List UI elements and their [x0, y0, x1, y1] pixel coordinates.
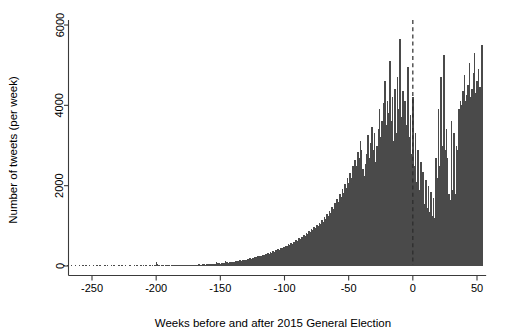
y-axis-ticks: 0200040006000 — [54, 13, 69, 269]
y-tick-label: 4000 — [54, 93, 66, 117]
x-tick-label: -100 — [273, 282, 295, 294]
x-tick-label: -50 — [341, 282, 357, 294]
histogram-bar — [481, 45, 483, 266]
x-tick-label: -150 — [209, 282, 231, 294]
y-axis-label: Number of tweets (per week) — [7, 76, 19, 224]
x-axis-label: Weeks before and after 2015 General Elec… — [155, 317, 391, 329]
histogram-bars — [63, 39, 483, 266]
y-tick-label: 2000 — [54, 173, 66, 197]
histogram-figure: 0200040006000 -250-200-150-100-50050 Wee… — [0, 0, 508, 332]
y-tick-label: 0 — [54, 263, 66, 269]
tweet-volume-histogram: 0200040006000 -250-200-150-100-50050 Wee… — [0, 0, 508, 332]
x-tick-label: 50 — [471, 282, 483, 294]
y-tick-label: 6000 — [54, 13, 66, 37]
x-axis-ticks: -250-200-150-100-50050 — [81, 276, 483, 294]
x-tick-label: -200 — [145, 282, 167, 294]
x-tick-label: -250 — [81, 282, 103, 294]
x-tick-label: 0 — [410, 282, 416, 294]
